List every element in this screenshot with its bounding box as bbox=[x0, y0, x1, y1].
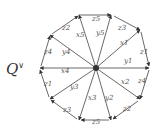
quiver-diagram: z5 z3 z1 z4 z2 z5 z3 z1 z4 z2 x5 y5 x1 y… bbox=[0, 0, 154, 128]
svg-text:z4: z4 bbox=[137, 77, 146, 85]
svg-text:x1: x1 bbox=[120, 39, 128, 47]
svg-text:x3: x3 bbox=[88, 94, 97, 102]
center-vertex bbox=[93, 65, 99, 71]
svg-text:x5: x5 bbox=[76, 31, 85, 39]
svg-text:y2: y2 bbox=[104, 94, 114, 102]
svg-text:z3: z3 bbox=[117, 24, 127, 32]
svg-text:z5: z5 bbox=[91, 118, 101, 126]
svg-text:y3: y3 bbox=[69, 83, 79, 91]
svg-text:x4: x4 bbox=[61, 67, 69, 75]
svg-text:y5: y5 bbox=[95, 29, 105, 37]
svg-text:y4: y4 bbox=[61, 48, 70, 56]
svg-text:x2: x2 bbox=[121, 78, 130, 86]
svg-text:z2: z2 bbox=[122, 105, 132, 113]
svg-text:z4: z4 bbox=[43, 48, 52, 56]
svg-text:z3: z3 bbox=[62, 106, 72, 114]
svg-text:z1: z1 bbox=[139, 48, 148, 56]
svg-text:z1: z1 bbox=[43, 80, 52, 88]
svg-text:y1: y1 bbox=[123, 57, 132, 65]
svg-text:z5: z5 bbox=[91, 15, 101, 23]
svg-text:z2: z2 bbox=[61, 24, 71, 32]
